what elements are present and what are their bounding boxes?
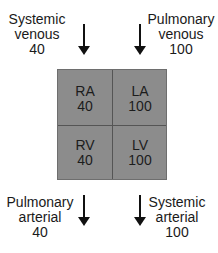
chamber-rv: RV 40 [58, 138, 112, 168]
pulmonary-arterial-label: Pulmonary arterial 40 [4, 195, 76, 240]
pulmonary-arterial-arrow-icon [78, 195, 90, 227]
systemic-arterial-label: Systemic arterial 100 [144, 195, 210, 240]
chamber-la: LA 100 [113, 84, 167, 114]
heart-chambers-grid: RA 40 LA 100 RV 40 LV 100 [57, 69, 167, 180]
systemic-venous-label: Systemic venous 40 [2, 12, 72, 57]
chamber-ra: RA 40 [58, 84, 112, 114]
pulmonary-venous-label: Pulmonary venous 100 [143, 12, 218, 57]
horizontal-divider [58, 125, 166, 126]
chamber-lv: LV 100 [113, 138, 167, 168]
systemic-venous-arrow-icon [78, 24, 90, 56]
